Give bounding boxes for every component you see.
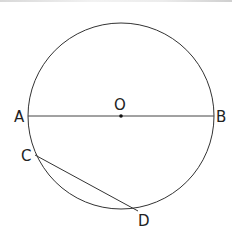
label-a: A [14,108,25,126]
label-b: B [216,108,226,126]
label-d: D [138,212,150,230]
circle-diagram: A B O C D [0,0,232,239]
center-point-dot [119,114,123,118]
label-o: O [114,96,126,114]
label-c: C [21,147,31,165]
